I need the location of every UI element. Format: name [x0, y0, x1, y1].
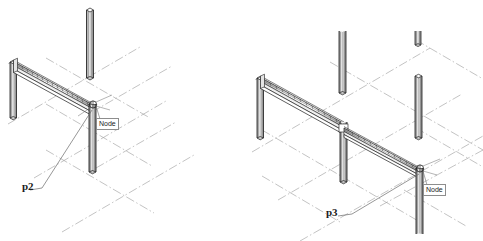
column-back-tall-right-panel — [339, 31, 346, 95]
drawing-canvas: Node p2 Node p3 — [0, 0, 483, 241]
column-rear-stub-right-panel — [415, 31, 421, 47]
point-label-p3: p3 — [326, 206, 338, 218]
beam-main-left-panel — [14, 58, 93, 115]
column-right-node-right-panel — [416, 168, 423, 234]
panel-right-group — [252, 31, 483, 241]
point-label-p2: p2 — [22, 180, 34, 192]
beam-lower-right-panel — [344, 127, 419, 178]
column-tall-back-left-panel — [87, 8, 94, 80]
node-leader-right-panel — [423, 171, 427, 185]
node-callout-left-panel[interactable]: Node — [96, 118, 119, 130]
column-right-free-right-panel — [415, 74, 422, 140]
technical-drawing-svg — [0, 0, 483, 241]
p3-leader-line — [338, 174, 419, 216]
beam-upper-right-panel — [261, 74, 345, 134]
column-right-node-left-panel — [89, 104, 96, 174]
node-callout-right-panel[interactable]: Node — [423, 184, 446, 196]
p2-leader-line — [30, 110, 92, 190]
